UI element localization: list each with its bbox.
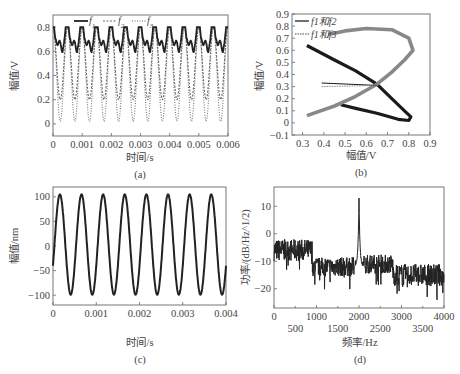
y-tick-label: −0.1 bbox=[270, 130, 289, 141]
y-tick-label: −50 bbox=[34, 265, 50, 276]
x-tick-label-lower: 2500 bbox=[370, 323, 391, 334]
x-tick-label: 2000 bbox=[349, 311, 370, 322]
panel-b-ylabel: 幅值/V bbox=[253, 60, 265, 91]
y-tick-label: 0.9 bbox=[276, 9, 289, 20]
panel-d-plot bbox=[274, 198, 444, 300]
panel-c-caption: (c) bbox=[134, 354, 146, 366]
y-tick-label: 0 bbox=[45, 241, 50, 252]
y-tick-label: 0.3 bbox=[276, 81, 289, 92]
x-tick-label-lower: 1500 bbox=[327, 323, 348, 334]
y-tick-label: 0.4 bbox=[276, 69, 290, 80]
y-tick-label: 0.8 bbox=[276, 21, 289, 32]
series-f1和f2-spur bbox=[322, 83, 377, 85]
panel-a: 00.0010.0020.0030.0040.0050.00600.20.40.… bbox=[8, 15, 240, 181]
x-tick-label: 0.9 bbox=[423, 138, 436, 149]
x-tick-label: 0 bbox=[50, 139, 55, 150]
x-tick-label-lower: 3500 bbox=[412, 323, 433, 334]
x-tick-label: 0.004 bbox=[158, 139, 182, 150]
panel-c-ticks: 00.0010.0020.0030.004−100−50050100 bbox=[28, 191, 238, 319]
panel-a-xlabel: 时间/s bbox=[126, 151, 153, 163]
x-tick-label: 0.004 bbox=[214, 308, 238, 319]
x-tick-label: 0.003 bbox=[171, 308, 195, 319]
y-tick-label: 0.6 bbox=[276, 45, 289, 56]
y-tick-label: 0.2 bbox=[276, 93, 289, 104]
x-tick-label-lower: 500 bbox=[287, 323, 303, 334]
x-tick-label: 0 bbox=[271, 311, 276, 322]
y-tick-label: 0.7 bbox=[276, 33, 289, 44]
panel-d-caption: (d) bbox=[354, 354, 367, 366]
x-tick-label: 3000 bbox=[391, 311, 412, 322]
y-tick-label: −20 bbox=[255, 283, 271, 294]
panel-d: 01000200030004000−20−1001050015002500350… bbox=[239, 187, 455, 366]
x-tick-label: 4000 bbox=[434, 311, 455, 322]
panel-c-plot bbox=[53, 194, 226, 294]
y-tick-label: 0.1 bbox=[276, 105, 289, 116]
x-tick-label: 0.003 bbox=[129, 139, 153, 150]
x-tick-label: 0.002 bbox=[100, 139, 124, 150]
x-tick-label: 0.6 bbox=[360, 138, 373, 149]
x-tick-label: 1000 bbox=[306, 311, 327, 322]
y-tick-label: 0.6 bbox=[37, 46, 50, 57]
x-tick-label: 0.006 bbox=[216, 139, 240, 150]
panel-d-xlabel: 频率/Hz bbox=[342, 336, 378, 348]
panel-c: 00.0010.0020.0030.004−100−50050100 时间/s … bbox=[8, 187, 239, 366]
y-tick-label: −100 bbox=[28, 290, 50, 301]
x-tick-label: 0.005 bbox=[187, 139, 211, 150]
figure-canvas: 00.0010.0020.0030.0040.0050.00600.20.40.… bbox=[0, 0, 460, 374]
series-f1和f3-spur bbox=[322, 85, 377, 86]
y-tick-label: 0.2 bbox=[37, 94, 50, 105]
panel-c-xlabel: 时间/s bbox=[126, 336, 153, 348]
panel-a-plot bbox=[53, 27, 228, 121]
y-tick-label: 0 bbox=[266, 228, 271, 239]
y-tick-label: 100 bbox=[34, 191, 50, 202]
x-tick-label: 0.001 bbox=[70, 139, 94, 150]
panel-b: 0.30.40.50.60.70.80.9−0.100.10.20.30.40.… bbox=[253, 9, 437, 180]
y-tick-label: 0.5 bbox=[276, 57, 289, 68]
panel-b-xlabel: 幅值/V bbox=[346, 149, 377, 161]
x-tick-label: 0.4 bbox=[317, 138, 331, 149]
y-tick-label: 0 bbox=[284, 117, 289, 128]
series-power-spectrum bbox=[274, 198, 444, 300]
legend-label: f1和f3 bbox=[311, 29, 337, 40]
legend-label-f2: f2 bbox=[118, 15, 125, 30]
panel-b-plot bbox=[307, 29, 413, 121]
panel-d-ylabel: 功率/(dB/Hz^1/2) bbox=[239, 209, 252, 285]
x-tick-label: 0.5 bbox=[339, 138, 352, 149]
y-tick-label: 0.4 bbox=[37, 70, 51, 81]
x-tick-label: 0.8 bbox=[402, 138, 415, 149]
y-tick-label: 0.8 bbox=[37, 22, 50, 33]
x-tick-label: 0 bbox=[50, 308, 55, 319]
x-tick-label: 0.3 bbox=[296, 138, 309, 149]
legend-label-f1: f1 bbox=[89, 15, 95, 30]
panel-c-ylabel: 幅值/nm bbox=[8, 228, 20, 264]
panel-b-legend: f1和f2f1和f3 bbox=[295, 16, 337, 40]
x-tick-label: 0.002 bbox=[128, 308, 152, 319]
y-tick-label: −10 bbox=[255, 256, 271, 267]
x-tick-label: 0.7 bbox=[381, 138, 394, 149]
panel-a-ylabel: 幅值/V bbox=[8, 60, 20, 91]
x-tick-label: 0.001 bbox=[84, 308, 108, 319]
panel-a-caption: (a) bbox=[134, 169, 146, 181]
legend-label-f3: f3 bbox=[147, 15, 154, 30]
panel-b-caption: (b) bbox=[355, 167, 368, 179]
y-tick-label: 0 bbox=[45, 118, 50, 129]
y-tick-label: 50 bbox=[40, 216, 51, 227]
series-displacement bbox=[53, 194, 226, 294]
legend-label: f1和f2 bbox=[311, 16, 337, 27]
y-tick-label: 10 bbox=[261, 201, 272, 212]
